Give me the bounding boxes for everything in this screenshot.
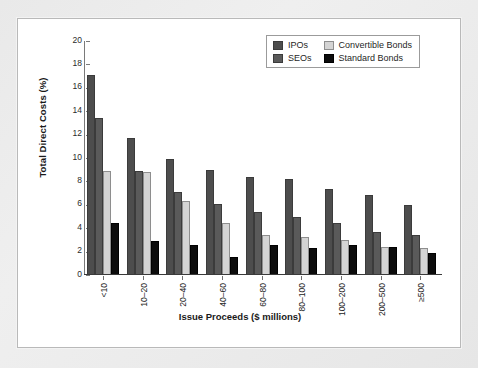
x-tick-mark [381, 276, 382, 280]
x-tick-label: <10 [99, 283, 109, 297]
bar[interactable] [103, 171, 111, 274]
bar[interactable] [190, 245, 198, 274]
bar[interactable] [381, 247, 389, 274]
x-tick-label: 80–100 [297, 283, 307, 311]
bar[interactable] [293, 217, 301, 274]
bar-group [204, 41, 244, 274]
bar[interactable] [246, 177, 254, 274]
y-tick-label: 10 [42, 152, 82, 162]
bar[interactable] [428, 253, 436, 274]
x-tick-mark [143, 276, 144, 280]
x-tick-mark [420, 276, 421, 280]
bar[interactable] [95, 118, 103, 274]
bar[interactable] [166, 159, 174, 274]
x-tick-label: ≥500 [416, 283, 426, 302]
bar[interactable] [143, 172, 151, 274]
legend-swatch-icon [324, 54, 334, 63]
bar-group [164, 41, 204, 274]
bar[interactable] [206, 170, 214, 274]
legend-label: IPOs [288, 40, 308, 50]
bar[interactable] [341, 240, 349, 274]
bar[interactable] [182, 201, 190, 274]
legend-label: Standard Bonds [339, 53, 404, 63]
bar-group [323, 41, 363, 274]
bar[interactable] [87, 75, 95, 274]
bar-group [85, 41, 125, 274]
y-tick-label: 18 [42, 58, 82, 68]
legend-item[interactable]: IPOs [273, 40, 312, 50]
bar[interactable] [135, 171, 143, 274]
chart-legend: IPOsConvertible BondsSEOsStandard Bonds [266, 35, 420, 68]
legend-swatch-icon [273, 54, 283, 63]
bar-series-layer [85, 41, 442, 274]
bar[interactable] [254, 212, 262, 274]
bar[interactable] [151, 241, 159, 274]
figure-root: Total Direct Costs (%) 02468101214161820… [0, 0, 478, 368]
bar[interactable] [333, 223, 341, 274]
bar[interactable] [365, 195, 373, 274]
legend-item[interactable]: SEOs [273, 53, 312, 63]
bar[interactable] [222, 223, 230, 274]
bar-group [244, 41, 284, 274]
x-tick-mark [341, 276, 342, 280]
legend-item[interactable]: Standard Bonds [324, 53, 413, 63]
x-tick-mark [222, 276, 223, 280]
x-axis-line [84, 274, 442, 275]
legend-item[interactable]: Convertible Bonds [324, 40, 413, 50]
bar[interactable] [325, 189, 333, 274]
x-tick-label: 20–40 [178, 283, 188, 307]
y-tick-label: 0 [42, 269, 82, 279]
y-tick-label: 12 [42, 128, 82, 138]
legend-swatch-icon [273, 41, 283, 50]
bar[interactable] [349, 245, 357, 274]
x-tick-mark [301, 276, 302, 280]
bar[interactable] [270, 245, 278, 274]
bar[interactable] [285, 179, 293, 274]
x-tick-label: 10–20 [139, 283, 149, 307]
legend-swatch-icon [324, 41, 334, 50]
x-tick-mark [262, 276, 263, 280]
y-tick-label: 20 [42, 35, 82, 45]
bar[interactable] [214, 204, 222, 274]
chart-panel: Total Direct Costs (%) 02468101214161820… [17, 18, 461, 348]
legend-label: Convertible Bonds [339, 40, 413, 50]
bar[interactable] [412, 235, 420, 274]
bar[interactable] [262, 235, 270, 274]
bar[interactable] [389, 247, 397, 274]
bar[interactable] [111, 223, 119, 274]
bar[interactable] [373, 232, 381, 274]
bar-group [363, 41, 403, 274]
bar[interactable] [420, 248, 428, 274]
x-tick-mark [182, 276, 183, 280]
bar[interactable] [301, 237, 309, 274]
bar[interactable] [174, 192, 182, 274]
x-tick-label: 40–60 [218, 283, 228, 307]
bar-group [402, 41, 442, 274]
bar-group [283, 41, 323, 274]
y-tick-label: 2 [42, 245, 82, 255]
bar-group [125, 41, 165, 274]
y-tick-label: 14 [42, 105, 82, 115]
legend-label: SEOs [288, 53, 312, 63]
y-tick-label: 6 [42, 198, 82, 208]
bar[interactable] [127, 138, 135, 274]
y-tick-label: 4 [42, 222, 82, 232]
bar[interactable] [230, 257, 238, 274]
bar[interactable] [404, 205, 412, 274]
x-axis-title: Issue Proceeds ($ millions) [18, 311, 462, 322]
plot-area: 02468101214161820 <1010–2020–4040–6060–8… [84, 41, 442, 275]
bar[interactable] [309, 248, 317, 274]
x-tick-mark [103, 276, 104, 280]
y-tick-label: 8 [42, 175, 82, 185]
y-tick-label: 16 [42, 81, 82, 91]
x-tick-label: 60–80 [258, 283, 268, 307]
